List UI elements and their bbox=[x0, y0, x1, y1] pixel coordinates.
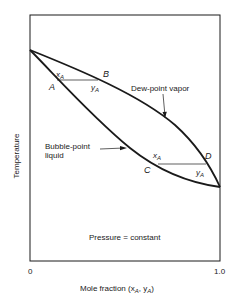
point-c-label: C bbox=[144, 165, 151, 175]
pressure-condition-label: Pressure = constant bbox=[89, 233, 161, 242]
bubble-point-arrowhead bbox=[120, 146, 127, 150]
phase-diagram: A B C D xA yA xA yA Dew-point vapor Bubb… bbox=[0, 0, 233, 302]
x-tick-0: 0 bbox=[28, 267, 33, 276]
point-d-label: D bbox=[205, 151, 212, 161]
plot-frame bbox=[30, 15, 220, 261]
point-b-label: B bbox=[103, 69, 109, 79]
dew-point-label: Dew-point vapor bbox=[131, 84, 190, 93]
ya-label-cd: yA bbox=[195, 168, 204, 178]
xa-label-cd: xA bbox=[152, 151, 161, 161]
y-axis-label: Temperature bbox=[12, 133, 21, 178]
bubble-point-label-line1: Bubble-point bbox=[45, 142, 91, 151]
ya-label-ab: yA bbox=[90, 83, 99, 93]
xa-label-ab: xA bbox=[55, 70, 64, 80]
x-axis-label: Mole fraction (xA, yA) bbox=[80, 284, 154, 294]
point-a-label: A bbox=[48, 82, 55, 92]
bubble-point-label-line2: liquid bbox=[45, 151, 64, 160]
x-tick-1: 1.0 bbox=[214, 267, 226, 276]
